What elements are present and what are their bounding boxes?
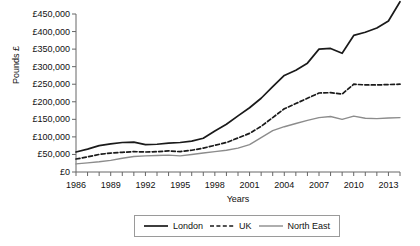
x-tick-label: 2004: [274, 180, 294, 190]
legend-label: UK: [239, 221, 252, 231]
x-tick-label: 2010: [344, 180, 364, 190]
legend-swatch-north-east: [259, 222, 283, 230]
x-axis-tick-labels: 1986198919921995199820012004200720102013: [0, 0, 420, 246]
x-tick-label: 2013: [378, 180, 398, 190]
x-tick-label: 1995: [170, 180, 190, 190]
x-tick-label: 2001: [240, 180, 260, 190]
legend-label: London: [173, 221, 203, 231]
legend-entry-north-east: North East: [259, 221, 331, 231]
x-tick-label: 1998: [205, 180, 225, 190]
line-chart: Pounds £ £0£50,000£100,000£150,000£200,0…: [0, 0, 420, 246]
x-tick-label: 2007: [309, 180, 329, 190]
legend-label: North East: [288, 221, 331, 231]
x-tick-label: 1992: [135, 180, 155, 190]
legend-swatch-london: [144, 222, 168, 230]
x-tick-label: 1986: [66, 180, 86, 190]
legend-entry-london: London: [144, 221, 203, 231]
chart-legend: LondonUKNorth East: [134, 215, 340, 237]
legend-entry-uk: UK: [210, 221, 252, 231]
x-tick-label: 1989: [101, 180, 121, 190]
legend-swatch-uk: [210, 222, 234, 230]
x-axis-title: Years: [76, 194, 400, 204]
